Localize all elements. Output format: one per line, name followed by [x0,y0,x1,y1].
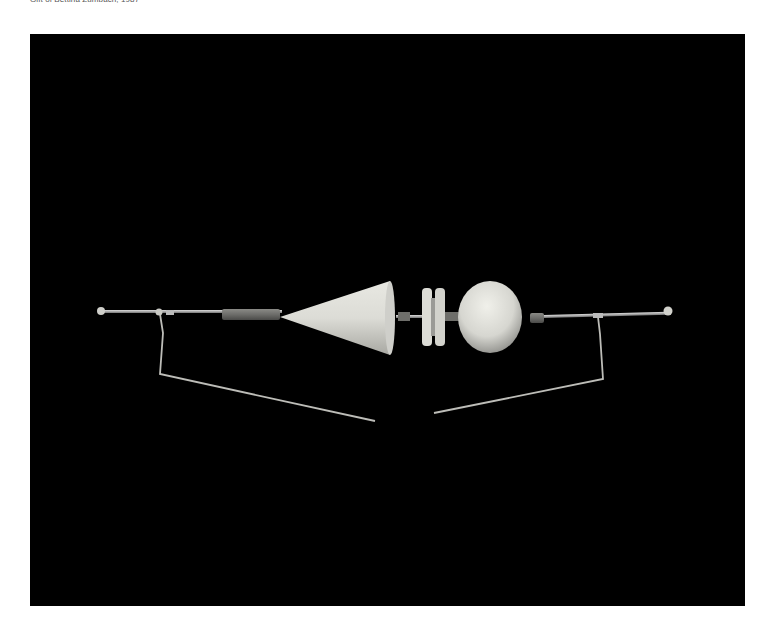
artwork-photo [30,34,745,606]
center-sleeve [398,312,410,321]
left-rod [97,307,282,320]
credit-caption: Gift of Bettina Zumbach, 1987 [30,0,139,4]
pulley-disc [422,288,445,346]
sphere-sleeve [445,312,459,321]
sculpture-illustration [30,34,745,606]
cone [280,281,395,355]
sphere [458,281,522,353]
right-rod [530,307,673,324]
